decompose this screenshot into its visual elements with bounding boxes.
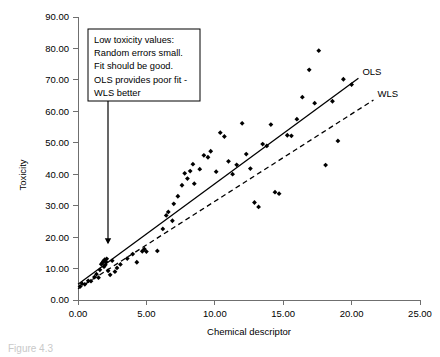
data-point-marker [248, 166, 253, 171]
data-point-marker [316, 48, 321, 53]
data-point-marker [130, 252, 135, 257]
data-point-marker [97, 267, 102, 272]
data-point-marker [208, 149, 213, 154]
y-axis-title: Toxicity [17, 159, 28, 190]
y-tick-label: 80.00 [45, 43, 69, 54]
data-point-marker [115, 266, 120, 271]
x-tick-label: 25.00 [408, 308, 432, 319]
data-point-marker [307, 67, 312, 72]
data-point-marker [285, 133, 290, 138]
data-point-marker [201, 153, 206, 158]
data-point-marker [218, 130, 223, 135]
data-point-marker [214, 169, 219, 174]
data-point-marker [188, 169, 193, 174]
y-tick-label: 90.00 [45, 11, 69, 22]
annotation-line: WLS better [94, 88, 141, 98]
data-point-marker [256, 205, 261, 210]
x-tick-label: 5.00 [137, 308, 156, 319]
data-point-marker [252, 200, 257, 205]
data-point-marker [175, 194, 180, 199]
y-tick-label: 10.00 [45, 263, 69, 274]
annotation-line: Low toxicity values: [94, 35, 174, 45]
data-point-marker [197, 167, 202, 172]
data-point-marker [170, 218, 175, 223]
y-tick-label: 0.00 [51, 294, 70, 305]
annotation-line: OLS provides poor fit - [94, 75, 187, 85]
data-point-marker [134, 260, 139, 265]
data-point-marker [273, 190, 278, 195]
y-tick-label: 40.00 [45, 169, 69, 180]
data-point-marker [349, 82, 354, 87]
x-tick-label: 15.00 [271, 308, 295, 319]
fit-line-labels: OLSWLS [362, 66, 398, 99]
data-point-marker [330, 99, 335, 104]
fit-label-ols: OLS [362, 66, 381, 77]
x-axis-title: Chemical descriptor [207, 326, 291, 337]
x-tick-label: 10.00 [203, 308, 227, 319]
data-point-marker [160, 227, 165, 232]
data-point-marker [155, 249, 160, 254]
data-point-marker [289, 133, 294, 138]
annotation-callout: Low toxicity values:Random errors small.… [88, 29, 200, 244]
fit-lines [78, 78, 373, 288]
scatter-plot: 0.0010.0020.0030.0040.0050.0060.0070.008… [0, 0, 440, 357]
fit-line-wls [78, 100, 373, 289]
data-point-marker [226, 159, 231, 164]
data-point-marker [294, 117, 299, 122]
x-tick-label: 0.00 [69, 308, 88, 319]
data-point-marker [336, 138, 341, 143]
annotation-line: Fit should be good. [94, 61, 173, 71]
fit-label-wls: WLS [377, 88, 398, 99]
data-point-marker [277, 191, 282, 196]
data-point-marker [108, 272, 113, 277]
y-axis-ticks: 0.0010.0020.0030.0040.0050.0060.0070.008… [45, 11, 78, 305]
data-point-marker [171, 201, 176, 206]
y-tick-label: 70.00 [45, 74, 69, 85]
y-tick-label: 60.00 [45, 106, 69, 117]
data-point-marker [191, 162, 196, 167]
data-point-marker [206, 155, 211, 160]
data-point-marker [341, 77, 346, 82]
figure-caption: Figure 4.3 [8, 343, 53, 354]
data-point-marker [300, 95, 305, 100]
y-tick-label: 50.00 [45, 137, 69, 148]
data-point-marker [185, 176, 190, 181]
data-point-marker [118, 262, 123, 267]
y-tick-label: 30.00 [45, 200, 69, 211]
data-point-marker [110, 258, 115, 263]
data-point-marker [268, 122, 273, 127]
data-point-marker [222, 134, 227, 139]
x-tick-label: 20.00 [340, 308, 364, 319]
data-point-marker [192, 181, 197, 186]
figure-container: 0.0010.0020.0030.0040.0050.0060.0070.008… [0, 0, 440, 357]
data-point-marker [180, 183, 185, 188]
annotation-arrowhead [105, 238, 111, 244]
data-point-marker [312, 101, 317, 106]
data-point-marker [182, 171, 187, 176]
data-point-marker [244, 152, 249, 157]
fit-line-ols [78, 78, 358, 284]
data-point-marker [113, 269, 118, 274]
annotation-line: Random errors small. [94, 48, 183, 58]
data-point-marker [323, 163, 328, 168]
data-point-marker [260, 142, 265, 147]
x-axis-ticks: 0.005.0010.0015.0020.0025.00 [69, 300, 432, 319]
data-point-marker [240, 121, 245, 126]
y-tick-label: 20.00 [45, 232, 69, 243]
